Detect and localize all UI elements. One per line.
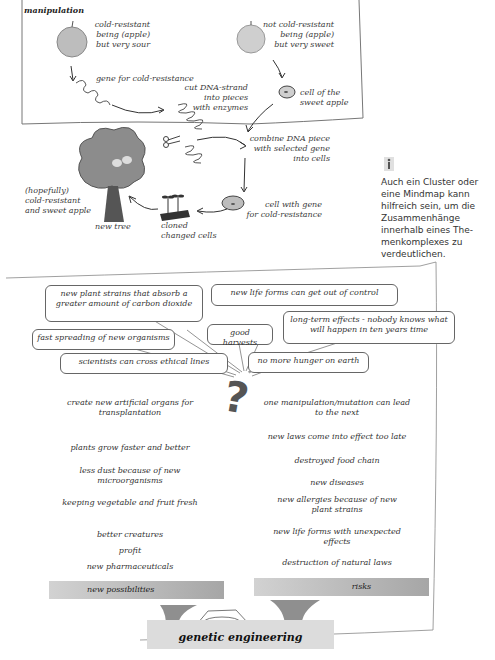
apple-left-label: cold-resistant being (apple) but very so… — [90, 20, 150, 50]
new-tree-label: new tree — [95, 222, 131, 232]
info-icon — [384, 157, 394, 171]
possibility-item: profit — [55, 546, 205, 556]
risk-item: destruction of natural laws — [262, 558, 412, 568]
possibility-item: create new artificial organs for transpl… — [55, 398, 205, 418]
risk-item: new allergies because of new plant strai… — [272, 495, 402, 515]
risk-item: one manipulation/mutation can lead to th… — [262, 398, 412, 418]
bubble-no-hunger: no more hunger on earth — [248, 352, 369, 373]
bubble-good-harvests: good harvests — [207, 324, 273, 345]
apple-right-label: not cold-resistant being (apple) but ver… — [262, 20, 334, 50]
possibility-item: less dust because of new microorganisms — [70, 466, 190, 486]
risk-item: destroyed food chain — [262, 456, 412, 466]
possibility-item: plants grow faster and better — [55, 443, 205, 453]
bubble-carbon-dioxide: new plant strains that absorb agreater a… — [45, 285, 203, 322]
genetic-engineering-base: genetic engineering — [147, 620, 334, 649]
result-label: (hopefully) cold-resistant and sweet app… — [25, 186, 91, 216]
bubble-out-of-control: new life forms can get out of control — [211, 284, 398, 306]
sweet-cell-label: cell of the sweet apple — [300, 88, 348, 108]
bubble-fast-spreading: fast spreading of new organisms — [32, 329, 175, 350]
possibility-item: keeping vegetable and fruit fresh — [55, 498, 205, 508]
possibility-item: better creatures — [55, 530, 205, 540]
risk-item: new diseases — [262, 478, 412, 488]
risks-bar: risks — [254, 578, 429, 596]
risk-item: new life forms with unexpected effects — [272, 527, 402, 547]
bubble-ethical-lines: scientists can cross ethical lines — [60, 353, 228, 374]
gene-cell-label: cell with gene for cold-resistance — [240, 200, 322, 220]
cloned-label: cloned changed cells — [161, 221, 217, 241]
risk-item: new laws come into effect too late — [262, 432, 412, 442]
combine-label: combine DNA piece with selected gene int… — [248, 134, 330, 164]
cut-label: cut DNA-strand into pieces with enzymes — [172, 83, 248, 113]
side-note: Auch ein Cluster oder eine Mindmap kann … — [381, 176, 493, 260]
diagram-title: manipulation — [24, 5, 84, 15]
bubble-long-term-effects: long-term effects - nobody knows whatwil… — [283, 311, 455, 344]
possibilities-bar: new possibilities — [49, 581, 224, 599]
possibility-item: new pharmaceuticals — [55, 562, 205, 572]
